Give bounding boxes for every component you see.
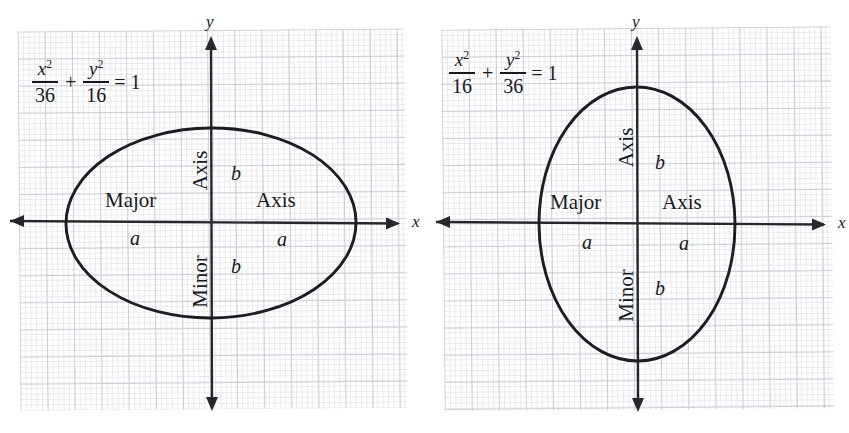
minor-axis-label-axis: Axis <box>616 122 637 174</box>
major-axis-label-major: Major <box>105 190 156 211</box>
equation-x-numerator: x <box>38 58 46 79</box>
semi-axis-a-right: a <box>277 229 287 249</box>
equation-y-denominator: 36 <box>500 74 526 98</box>
x-axis <box>436 216 826 231</box>
x-axis <box>10 215 400 230</box>
y-axis-label: y <box>206 13 214 30</box>
equation-x-denominator: 16 <box>449 74 475 98</box>
semi-axis-b-top: b <box>655 152 665 172</box>
semi-axis-a-left: a <box>582 232 592 252</box>
fraction-x-over-b2: x2 16 <box>449 49 475 98</box>
equation-plus-sign: + <box>482 62 493 85</box>
equation-x-exponent: 2 <box>463 49 469 62</box>
major-axis-label-axis: Axis <box>256 190 296 211</box>
major-axis-label-axis: Axis <box>662 192 702 213</box>
y-axis-label: y <box>632 13 640 30</box>
equation-equals-one: = 1 <box>531 62 557 85</box>
equation-x-denominator: 36 <box>32 83 58 107</box>
equation-x-exponent: 2 <box>46 58 52 71</box>
fraction-x-over-a2: x2 36 <box>32 58 58 107</box>
major-axis-label-major: Major <box>550 192 601 213</box>
semi-axis-a-left: a <box>130 228 140 248</box>
semi-axis-a-right: a <box>679 233 689 253</box>
equation-y-numerator: y <box>89 58 97 79</box>
minor-axis-label-axis: Axis <box>190 145 211 197</box>
equation-y-exponent: 2 <box>98 58 104 71</box>
equation-x-numerator: x <box>455 49 463 70</box>
equation-plus-sign: + <box>65 71 76 94</box>
ellipse-equation: x2 36 + y2 16 = 1 <box>30 58 141 107</box>
fraction-y-over-a2: y2 36 <box>500 49 526 98</box>
semi-axis-b-bottom: b <box>655 278 665 298</box>
equation-y-denominator: 16 <box>83 83 109 107</box>
x-axis-label: x <box>838 214 846 231</box>
minor-axis-label-minor: Minor <box>190 248 211 316</box>
ellipse-equation: x2 16 + y2 36 = 1 <box>447 49 558 98</box>
equation-y-exponent: 2 <box>515 49 521 62</box>
x-axis-label: x <box>412 213 420 230</box>
ellipse-panel-horizontal: x2 36 + y2 16 = 1 y x Major Axis Axis Mi… <box>0 0 425 433</box>
equation-y-numerator: y <box>506 49 514 70</box>
semi-axis-b-top: b <box>231 163 241 183</box>
ellipse-panel-vertical: x2 16 + y2 36 = 1 y x Major Axis Axis Mi… <box>424 0 849 433</box>
figure-root: x2 36 + y2 16 = 1 y x Major Axis Axis Mi… <box>0 0 849 433</box>
fraction-y-over-b2: y2 16 <box>83 58 109 107</box>
minor-axis-label-minor: Minor <box>616 262 637 330</box>
semi-axis-b-bottom: b <box>231 256 241 276</box>
equation-equals-one: = 1 <box>114 71 140 94</box>
